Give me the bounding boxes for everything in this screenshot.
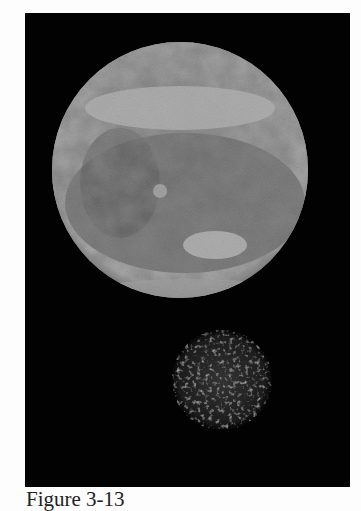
small-body [165,323,285,443]
planet-illustration [25,13,350,487]
large-body [45,33,325,313]
figure-caption: Figure 3-13 [26,489,125,510]
figure-image [25,13,350,487]
